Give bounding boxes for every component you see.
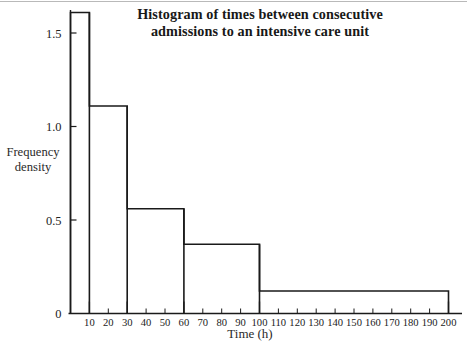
x-tick-label-15: 160 [365, 317, 381, 328]
x-tick-label-17: 180 [403, 317, 419, 328]
x-tick-label-4: 50 [160, 317, 171, 328]
histogram-bar-10-30 [89, 106, 127, 314]
x-tick-label-5: 60 [179, 317, 190, 328]
x-tick-label-0: 10 [84, 317, 95, 328]
x-tick-label-3: 40 [141, 317, 152, 328]
x-tick-label-13: 140 [327, 317, 343, 328]
histogram-bar-100-200 [260, 291, 449, 313]
x-tick-label-6: 70 [198, 317, 209, 328]
x-tick-label-18: 190 [422, 317, 438, 328]
histogram-bar-30-60 [127, 209, 184, 314]
x-tick-label-12: 130 [308, 317, 324, 328]
x-tick-label-1: 20 [103, 317, 114, 328]
x-tick-label-2: 30 [122, 317, 133, 328]
x-tick-label-19: 200 [441, 317, 457, 328]
x-tick-label-11: 120 [289, 317, 305, 328]
plot-area: 00.51.01.5 10203040506070809010011012013… [0, 0, 467, 344]
x-tick-label-8: 90 [235, 317, 246, 328]
x-tick-label-14: 150 [346, 317, 362, 328]
y-tick-label-1: 0.5 [46, 214, 62, 228]
y-tick-label-2: 1.0 [46, 120, 62, 134]
histogram-bars [71, 12, 449, 313]
x-tick-label-9: 100 [252, 317, 268, 328]
y-tick-label-0: 0 [55, 307, 61, 321]
histogram-bar-60-100 [184, 244, 260, 313]
x-tick-label-7: 80 [216, 317, 227, 328]
histogram-bar-0-10 [71, 12, 90, 313]
histogram-figure: Histogram of times between consecutive a… [0, 0, 467, 344]
x-tick-label-16: 170 [384, 317, 400, 328]
y-tick-label-3: 1.5 [46, 27, 62, 41]
x-tick-label-10: 110 [271, 317, 287, 328]
